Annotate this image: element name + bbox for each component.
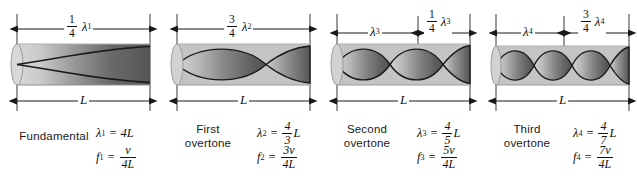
wavelength-value: 4L — [120, 126, 133, 141]
caption-fundamental: Fundamental — [9, 130, 99, 144]
wavelength-equation: λ3 = 4 5 L — [417, 121, 460, 145]
length-label-second-overtone: L — [398, 93, 409, 106]
equals-sign: = — [580, 150, 595, 165]
wavelength-equation: λ1 = 4L — [96, 121, 137, 145]
fraction-numerator: 3v — [281, 144, 296, 157]
lambda-subscript: 1 — [87, 23, 91, 31]
fraction-three-quarters: 3 4 — [581, 9, 591, 34]
length-label-fundamental: L — [78, 93, 89, 106]
top-dimension-label-fundamental: 1 4 λ 1 — [64, 14, 93, 39]
equals-sign: = — [103, 150, 118, 165]
caption-first-overtone: First overtone — [170, 123, 246, 150]
caption-line-2: overtone — [327, 137, 407, 151]
length-symbol: L — [609, 126, 616, 141]
equations-first-overtone: λ2 = 4 3 L f2 = 3v 4L — [257, 121, 300, 169]
equals-sign: = — [264, 150, 279, 165]
equals-sign: = — [424, 150, 439, 165]
equations-fundamental: λ1 = 4L f1 = v 4L — [96, 121, 137, 169]
tube-cap-ellipse — [171, 44, 183, 85]
fraction-one-quarter: 1 4 — [67, 14, 77, 39]
tube-body — [17, 44, 150, 85]
frequency-equation: f4 = 7v 4L — [573, 145, 616, 169]
length-symbol: L — [453, 126, 460, 141]
frequency-fraction: v 4L — [120, 144, 137, 170]
fraction-denominator: 4L — [597, 157, 614, 171]
lambda-subscript: 2 — [247, 23, 251, 31]
top-dimension-label-third-overtone-lambda: λ 4 — [521, 25, 535, 38]
equations-second-overtone: λ3 = 4 5 L f3 = 5v 4L — [417, 121, 460, 169]
length-symbol: L — [293, 126, 300, 141]
caption-third-overtone: Third overtone — [487, 123, 567, 150]
fraction-numerator: 4 — [598, 120, 608, 133]
lambda-subscript: 4 — [600, 18, 604, 26]
top-dimension-label-second-overtone-lambda: λ 3 — [368, 25, 382, 38]
fraction-one-quarter: 1 4 — [427, 9, 437, 34]
tube-cap-ellipse — [331, 44, 343, 85]
length-label-third-overtone: L — [557, 93, 568, 106]
top-dimension-label-first-overtone: 3 4 λ 2 — [224, 14, 253, 39]
equals-sign: = — [426, 126, 441, 141]
caption-line-2: overtone — [487, 137, 567, 151]
frequency-fraction: 7v 4L — [597, 144, 614, 170]
fraction-numerator: 4 — [442, 120, 452, 133]
frequency-fraction: 5v 4L — [441, 144, 458, 170]
caption-line-2: overtone — [170, 137, 246, 151]
equals-sign: = — [105, 126, 120, 141]
caption-second-overtone: Second overtone — [327, 123, 407, 150]
wavelength-equation: λ4 = 4 7 L — [573, 121, 616, 145]
standing-wave-harmonics-figure: 1 4 λ 1 3 4 λ 2 λ 3 1 4 λ 3 λ 4 3 4 λ 4 — [0, 0, 637, 176]
fraction-numerator: 7v — [597, 144, 612, 157]
fraction-denominator: 4L — [120, 157, 137, 171]
frequency-fraction: 3v 4L — [281, 144, 298, 170]
length-label-first-overtone: L — [238, 93, 249, 106]
frequency-equation: f2 = 3v 4L — [257, 145, 300, 169]
fraction-three-quarters: 3 4 — [227, 14, 237, 39]
fraction-numerator: v — [123, 144, 132, 157]
equals-sign: = — [582, 126, 597, 141]
frequency-equation: f1 = v 4L — [96, 145, 137, 169]
wavelength-equation: λ2 = 4 3 L — [257, 121, 300, 145]
fraction-numerator: 5v — [441, 144, 456, 157]
equals-sign: = — [266, 126, 281, 141]
caption-line-1: First — [170, 123, 246, 137]
top-dimension-label-third-overtone-three-quarter: 3 4 λ 4 — [578, 9, 606, 34]
lambda-subscript: 4 — [529, 28, 533, 36]
equations-third-overtone: λ4 = 4 7 L f4 = 7v 4L — [573, 121, 616, 169]
fraction-denominator: 4L — [441, 157, 458, 171]
fraction-numerator: 4 — [282, 120, 292, 133]
tube-cap-ellipse — [491, 46, 501, 85]
top-dimension-label-second-overtone-quarter: 1 4 λ 3 — [424, 9, 452, 34]
frequency-equation: f3 = 5v 4L — [417, 145, 460, 169]
caption-line-1: Third — [487, 123, 567, 137]
fraction-denominator: 4L — [281, 157, 298, 171]
caption-line-1: Second — [327, 123, 407, 137]
lambda-subscript: 3 — [376, 28, 380, 36]
lambda-subscript: 3 — [446, 18, 450, 26]
